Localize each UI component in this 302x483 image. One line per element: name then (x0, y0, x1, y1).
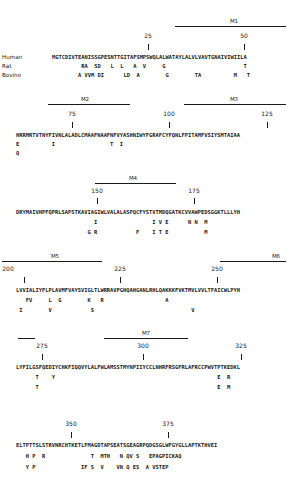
position-tick (97, 198, 98, 204)
sequence-bovine: T E M (16, 384, 230, 391)
position-number: 225 (114, 265, 125, 272)
sequence-bovine: Y P IF S V VN Q ES A VSTEP (16, 464, 169, 471)
tm-segment-m5-bar (2, 261, 102, 262)
position-tick (42, 354, 43, 360)
tm-segment-m4-label: M4 (129, 175, 137, 181)
position-number: 150 (91, 187, 102, 194)
tm-segment-m7-label: M7 (142, 330, 150, 336)
position-tick (148, 44, 149, 50)
tm-segment-m2-bar (48, 104, 130, 105)
species-label-human: Human (2, 54, 22, 61)
species-label-bovine: Bovine (2, 72, 21, 79)
position-number: 200 (2, 265, 13, 272)
tm-segment-m2-label: M2 (81, 96, 89, 102)
position-tick (244, 44, 245, 50)
position-number: 275 (36, 342, 47, 349)
sequence-rat: FV L G K R A (16, 297, 169, 304)
position-tick (143, 354, 144, 360)
position-tick (120, 277, 121, 283)
position-number: 100 (163, 110, 174, 117)
position-number: 375 (162, 420, 173, 427)
tm-segment-m1-bar (175, 26, 286, 27)
position-number: 325 (235, 342, 246, 349)
position-tick (241, 354, 242, 360)
tm-segment-m3-bar (184, 104, 286, 105)
sequence-rat: T Y E R (16, 374, 230, 381)
sequence-human: MGTCDIVTEANISSGPESNTTGITAFSMPSWQLALWATAY… (52, 54, 247, 61)
position-tick (72, 122, 73, 128)
tm-segment-m1-label: M1 (230, 18, 238, 24)
position-tick (24, 277, 25, 283)
tm-segment-m7-bar (104, 338, 188, 339)
position-tick (168, 432, 169, 438)
position-tick (217, 277, 218, 283)
position-tick (267, 122, 268, 128)
position-tick (71, 432, 72, 438)
sequence-human: DRYMAIVHPFQPRLSAPSTKAVIAGIWLVALALASPQCFY… (16, 209, 240, 216)
sequence-bovine: Q (16, 150, 19, 157)
sequence-bovine: A VVM DI LD A G TA M T (52, 72, 273, 79)
tm-segment-m5-label: M5 (51, 253, 59, 259)
sequence-human: HRRMRTVTNYFIVNLALADLCMAAFNAAFNFVYASHNIWY… (16, 132, 240, 139)
position-number: 75 (68, 110, 76, 117)
tm-segment-m6-label: M6 (272, 253, 280, 259)
tm-segment-m6-bar (220, 261, 286, 262)
position-number: 50 (240, 32, 248, 39)
position-number: 300 (137, 342, 148, 349)
sequence-rat: RA SD L L A V G T (52, 63, 269, 70)
sequence-human: ELTPTTSLSTRVNRCHTKETLFMAGDTAPSEATSGEAGRP… (16, 442, 217, 449)
position-number: 350 (65, 420, 76, 427)
sequence-human: LVVIALIYFLPLAVMFVAYSVIGLTLWRRAVPGHQAHGAN… (16, 287, 240, 294)
tm-segment-m6-continuation-bar (18, 338, 35, 339)
sequence-rat: H P R T MTH N QV S EPAGPICKAQ (16, 453, 182, 460)
position-number: 25 (144, 32, 152, 39)
sequence-human: LYFILGSFQEDIYCHKFIQQVYLALFWLAMSSTMYNPIIY… (16, 364, 240, 371)
sequence-rat: E I T I (16, 141, 123, 148)
sequence-bovine: G R F I T E M (16, 229, 207, 236)
tm-segment-m4-bar (95, 183, 176, 184)
sequence-rat: I I V E N N M (16, 219, 207, 226)
position-number: 250 (211, 265, 222, 272)
position-tick (169, 122, 170, 128)
sequence-bovine: I V S V (16, 307, 195, 314)
tm-segment-m3-label: M3 (230, 96, 238, 102)
position-number: 125 (261, 110, 272, 117)
position-tick (194, 198, 195, 204)
position-number: 175 (188, 187, 199, 194)
species-label-rat: Rat (2, 63, 11, 70)
